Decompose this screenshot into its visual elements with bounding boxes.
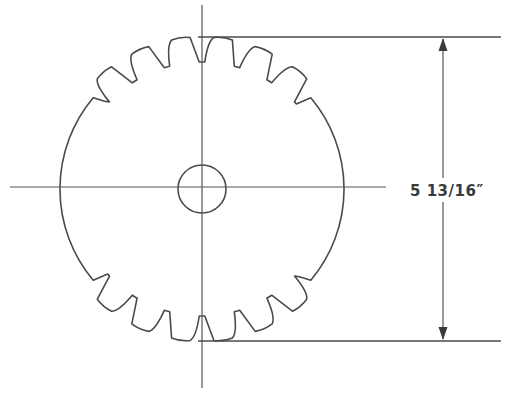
dimension-label: 5 13/16″ <box>408 182 486 200</box>
arrow-up-icon <box>439 38 448 51</box>
arrow-down-icon <box>439 327 448 340</box>
